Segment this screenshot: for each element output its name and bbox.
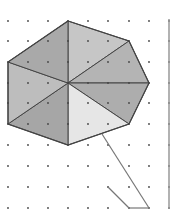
- grid-dot: [148, 186, 150, 188]
- grid-dot: [27, 102, 29, 104]
- grid-dot: [7, 123, 9, 125]
- grid-dot: [7, 102, 9, 104]
- grid-dot: [148, 82, 150, 84]
- grid-dot: [67, 82, 69, 84]
- grid-dot: [27, 207, 29, 209]
- grid-dot: [47, 40, 49, 42]
- grid-dot: [107, 207, 109, 209]
- grid-dot: [87, 207, 89, 209]
- grid-dot: [107, 165, 109, 167]
- grid-dot: [148, 102, 150, 104]
- grid-dot: [107, 123, 109, 125]
- grid-dot: [87, 20, 89, 22]
- grid-dot: [67, 144, 69, 146]
- extra-lines: [102, 134, 149, 208]
- grid-dot: [27, 186, 29, 188]
- grid-dot: [87, 102, 89, 104]
- grid-dot: [47, 102, 49, 104]
- grid-dot: [128, 165, 130, 167]
- grid-dot: [47, 20, 49, 22]
- grid-dot: [87, 82, 89, 84]
- grid-dot: [128, 144, 130, 146]
- grid-dot: [47, 186, 49, 188]
- grid-dot: [87, 186, 89, 188]
- grid-dot: [27, 61, 29, 63]
- grid-dot: [107, 102, 109, 104]
- grid-dot: [107, 61, 109, 63]
- grid-dot: [27, 123, 29, 125]
- grid-dot: [128, 61, 130, 63]
- grid-dot: [67, 165, 69, 167]
- grid-dot: [67, 102, 69, 104]
- grid-dot: [148, 123, 150, 125]
- grid-dot: [128, 82, 130, 84]
- grid-dot: [27, 40, 29, 42]
- grid-dot: [67, 186, 69, 188]
- grid-dot: [128, 20, 130, 22]
- grid-dot: [148, 40, 150, 42]
- grid-dot: [7, 165, 9, 167]
- triangle-fan: [8, 21, 149, 145]
- grid-dot: [47, 207, 49, 209]
- diagram-canvas: [0, 0, 173, 209]
- grid-dot: [87, 123, 89, 125]
- grid-dot: [27, 20, 29, 22]
- grid-dot: [27, 165, 29, 167]
- grid-dot: [87, 40, 89, 42]
- grid-dot: [47, 123, 49, 125]
- grid-dot: [27, 82, 29, 84]
- grid-dot: [148, 61, 150, 63]
- grid-dot: [7, 207, 9, 209]
- grid-dot: [87, 144, 89, 146]
- grid-dot: [107, 40, 109, 42]
- grid-dot: [148, 165, 150, 167]
- grid-dot: [148, 20, 150, 22]
- grid-dot: [128, 123, 130, 125]
- grid-dot: [27, 144, 29, 146]
- grid-dot: [67, 20, 69, 22]
- grid-dot: [128, 102, 130, 104]
- grid-dot: [67, 207, 69, 209]
- grid-dot: [7, 61, 9, 63]
- grid-dot: [47, 144, 49, 146]
- handle-short-line: [108, 187, 129, 208]
- grid-dot: [67, 40, 69, 42]
- grid-dot: [7, 20, 9, 22]
- grid-dot: [7, 144, 9, 146]
- grid-dot: [67, 61, 69, 63]
- grid-dot: [148, 144, 150, 146]
- grid-dot: [87, 61, 89, 63]
- grid-dot: [107, 82, 109, 84]
- grid-dot: [7, 186, 9, 188]
- grid-dot: [7, 40, 9, 42]
- grid-dot: [47, 61, 49, 63]
- grid-dot: [47, 165, 49, 167]
- handle-long-line: [102, 134, 149, 208]
- grid-dot: [128, 186, 130, 188]
- grid-dot: [87, 165, 89, 167]
- grid-dot: [7, 82, 9, 84]
- grid-dot: [128, 40, 130, 42]
- grid-dot: [47, 82, 49, 84]
- grid-dot: [107, 20, 109, 22]
- grid-dot: [67, 123, 69, 125]
